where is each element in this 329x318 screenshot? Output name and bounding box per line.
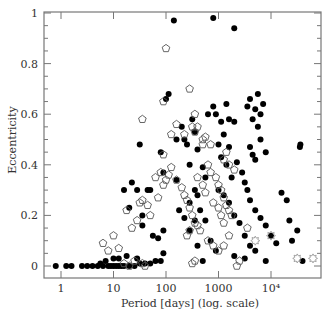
data-point-open bbox=[188, 123, 196, 130]
data-point-filled bbox=[284, 197, 290, 203]
data-point-open bbox=[110, 232, 118, 239]
data-point-filled bbox=[279, 190, 285, 196]
data-point-filled bbox=[202, 217, 208, 223]
data-point-filled bbox=[111, 255, 117, 261]
data-point-filled bbox=[166, 91, 172, 97]
data-point-filled bbox=[155, 235, 161, 241]
data-point-filled bbox=[218, 119, 224, 125]
data-point-filled bbox=[273, 240, 279, 246]
data-point-filled bbox=[258, 215, 264, 221]
data-point-open bbox=[194, 173, 202, 180]
data-point-filled bbox=[255, 124, 261, 130]
data-point-open bbox=[204, 161, 212, 168]
data-point-filled bbox=[252, 157, 258, 163]
data-point-filled bbox=[226, 116, 232, 122]
data-point-filled bbox=[244, 187, 250, 193]
scatter-chart: 110100100010⁴00.20.40.60.81 Period [days… bbox=[0, 0, 329, 318]
data-point-filled bbox=[121, 187, 127, 193]
data-point-open bbox=[104, 247, 112, 254]
data-point-filled bbox=[252, 248, 258, 254]
data-point-filled bbox=[53, 263, 59, 269]
data-point-open bbox=[217, 211, 225, 218]
data-point-filled bbox=[195, 147, 201, 153]
data-point-filled bbox=[234, 159, 240, 165]
data-point-open bbox=[202, 189, 210, 196]
data-point-filled bbox=[289, 238, 295, 244]
axis-ticks bbox=[44, 12, 321, 278]
data-point-open bbox=[199, 181, 207, 188]
data-point-filled bbox=[147, 187, 153, 193]
data-point-open bbox=[178, 184, 186, 191]
data-point-filled bbox=[221, 131, 227, 137]
y-tick-label: 0.4 bbox=[21, 159, 39, 172]
data-point-open bbox=[99, 239, 107, 246]
data-point-filled bbox=[90, 263, 96, 269]
data-point-open bbox=[154, 194, 162, 201]
data-point-filled bbox=[216, 142, 222, 148]
data-point-filled bbox=[195, 243, 201, 249]
data-point-filled bbox=[139, 212, 145, 218]
data-point-open bbox=[202, 133, 210, 140]
data-point-open bbox=[139, 115, 147, 122]
y-tick-label: 0.6 bbox=[21, 108, 39, 121]
data-point-filled bbox=[181, 215, 187, 221]
data-point-open bbox=[207, 141, 215, 148]
data-point-filled bbox=[213, 111, 219, 117]
y-axis-title: Eccentricity bbox=[6, 105, 19, 173]
data-points bbox=[53, 15, 318, 269]
data-point-filled bbox=[252, 106, 258, 112]
data-point-filled bbox=[174, 137, 180, 143]
data-point-open bbox=[207, 168, 215, 175]
data-point-filled bbox=[129, 180, 135, 186]
tick-labels: 110100100010⁴00.20.40.60.81 bbox=[21, 7, 281, 295]
x-tick-label: 100 bbox=[156, 282, 177, 295]
data-point-filled bbox=[210, 104, 216, 110]
data-point-filled bbox=[69, 263, 75, 269]
data-point-filled bbox=[176, 207, 182, 213]
data-point-filled bbox=[231, 25, 237, 31]
data-point-filled bbox=[200, 258, 206, 264]
x-tick-label: 1 bbox=[58, 282, 65, 295]
data-point-star bbox=[309, 254, 318, 263]
data-point-filled bbox=[250, 152, 256, 158]
y-tick-label: 0.2 bbox=[21, 209, 39, 222]
data-point-filled bbox=[237, 220, 243, 226]
data-point-filled bbox=[205, 111, 211, 117]
data-point-filled bbox=[210, 15, 216, 21]
data-point-filled bbox=[242, 233, 248, 239]
data-point-filled bbox=[258, 137, 264, 143]
data-point-open bbox=[133, 216, 141, 223]
data-point-open bbox=[173, 120, 181, 127]
y-tick-label: 0 bbox=[31, 260, 38, 273]
data-point-filled bbox=[286, 217, 292, 223]
series-open-pentagons bbox=[99, 44, 251, 269]
data-point-open bbox=[128, 224, 136, 231]
data-point-open bbox=[181, 191, 189, 198]
data-point-filled bbox=[187, 162, 193, 168]
data-point-filled bbox=[231, 253, 237, 259]
data-point-filled bbox=[263, 258, 269, 264]
data-point-filled bbox=[247, 96, 253, 102]
data-point-filled bbox=[229, 174, 235, 180]
data-point-filled bbox=[297, 142, 303, 148]
data-point-open bbox=[162, 44, 170, 51]
data-point-filled bbox=[223, 101, 229, 107]
data-point-open bbox=[209, 199, 217, 206]
data-point-filled bbox=[226, 144, 232, 150]
data-point-filled bbox=[231, 119, 237, 125]
data-point-filled bbox=[160, 250, 166, 256]
data-point-filled bbox=[294, 228, 300, 234]
data-point-filled bbox=[255, 91, 261, 97]
data-point-open bbox=[244, 224, 252, 231]
data-point-filled bbox=[263, 149, 269, 155]
data-point-filled bbox=[197, 207, 203, 213]
data-point-filled bbox=[244, 104, 250, 110]
data-point-open bbox=[167, 130, 175, 137]
data-point-filled bbox=[150, 233, 156, 239]
data-point-open bbox=[220, 242, 228, 249]
data-point-filled bbox=[84, 263, 90, 269]
data-point-filled bbox=[160, 228, 166, 234]
data-point-filled bbox=[268, 233, 274, 239]
data-point-filled bbox=[260, 101, 266, 107]
data-point-open bbox=[220, 219, 228, 226]
